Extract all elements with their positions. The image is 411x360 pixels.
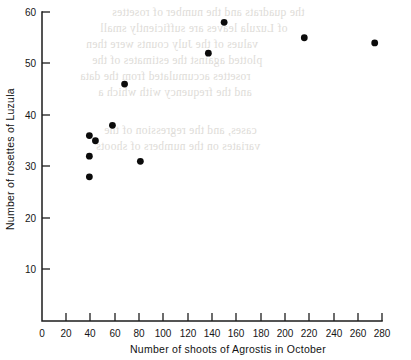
y-tick-label-40: 40: [25, 110, 37, 121]
x-tick-label-240: 240: [326, 328, 343, 339]
data-point: [205, 50, 212, 57]
data-point: [92, 137, 99, 144]
x-tick-label-80: 80: [133, 328, 145, 339]
data-point: [371, 40, 378, 47]
data-point: [301, 34, 308, 41]
data-point-series: [86, 19, 378, 180]
y-tick-label-50: 50: [25, 58, 37, 69]
y-axis-title: Number of rosettes of Luzula: [4, 88, 16, 230]
x-tick-label-0: 0: [39, 328, 45, 339]
y-tick-label-10: 10: [25, 264, 37, 275]
scatter-plot-figure: the quadrats and the number of rosettes …: [0, 0, 411, 360]
x-tick-label-40: 40: [84, 328, 96, 339]
x-tick-label-260: 260: [350, 328, 367, 339]
data-point: [121, 81, 128, 88]
x-axis-tick-labels: 0 20 40 60 80 100 120 140 160 180 200 22…: [39, 328, 391, 339]
x-tick-label-220: 220: [301, 328, 318, 339]
data-point: [109, 122, 116, 129]
plot-area: 60 50 40 30 20 10 Number of rosettes of …: [0, 0, 411, 360]
x-tick-label-120: 120: [180, 328, 197, 339]
x-tick-label-160: 160: [228, 328, 245, 339]
x-tick-label-60: 60: [109, 328, 121, 339]
axis-lines: [42, 12, 382, 321]
x-tick-label-180: 180: [253, 328, 270, 339]
x-tick-label-280: 280: [374, 328, 391, 339]
x-tick-label-140: 140: [204, 328, 221, 339]
data-point: [86, 173, 93, 180]
data-point: [137, 158, 144, 165]
y-tick-label-60: 60: [25, 7, 37, 18]
x-axis-ticks: [66, 313, 382, 321]
x-tick-label-20: 20: [60, 328, 72, 339]
y-axis-ticks: [42, 12, 50, 269]
y-tick-label-30: 30: [25, 161, 37, 172]
y-axis-tick-labels: 60 50 40 30 20 10: [25, 7, 37, 275]
data-point: [86, 153, 93, 160]
y-tick-label-20: 20: [25, 213, 37, 224]
data-point: [86, 132, 93, 139]
x-tick-label-100: 100: [155, 328, 172, 339]
x-tick-label-200: 200: [277, 328, 294, 339]
x-axis-title: Number of shoots of Agrostis in October: [130, 343, 326, 355]
data-point: [221, 19, 228, 26]
